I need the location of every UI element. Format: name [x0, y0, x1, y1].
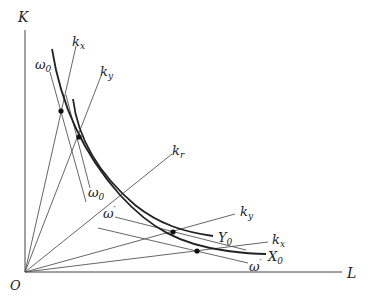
- point-x0-kx-upper: [58, 108, 63, 113]
- label-kx-upper: kx: [72, 34, 85, 51]
- label-omega0-upper: ω0: [35, 57, 52, 74]
- k-axis-label: K: [17, 9, 30, 25]
- point-y0-ky-upper: [76, 134, 81, 139]
- ray-ky-lower: [25, 214, 235, 272]
- origin-label: O: [10, 278, 21, 293]
- isoquant-x0: [52, 49, 266, 254]
- isoquant-y0: [73, 99, 213, 236]
- point-x0-kx-lower: [194, 248, 199, 253]
- ray-kr: [25, 154, 172, 272]
- isoquant-diagram: K L O kx ky kr ky kx X0 Y0: [0, 0, 368, 297]
- l-axis-label: L: [346, 265, 356, 281]
- label-kx-lower: kx: [272, 232, 285, 249]
- isoquants: [52, 49, 266, 254]
- point-y0-ky-lower: [170, 229, 175, 234]
- label-ky-lower: ky: [240, 204, 254, 221]
- label-ky-upper: ky: [100, 64, 114, 81]
- label-omega0-lower: ω0: [88, 185, 105, 202]
- label-kr: kr: [172, 143, 185, 160]
- label-x0: X0: [267, 249, 283, 266]
- label-omega-prime-mid: ω′: [103, 205, 116, 221]
- label-y0: Y0: [218, 230, 233, 247]
